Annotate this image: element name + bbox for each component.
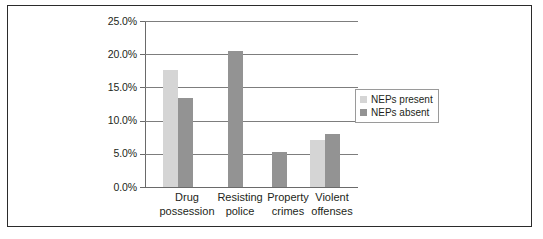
y-tick-label-25: 25.0%: [108, 15, 137, 27]
x-axis-labels: Drug possession Resisting police Propert…: [145, 190, 358, 232]
bar-drug-possession-neps-absent: [178, 98, 193, 187]
bar-property-crimes-neps-absent: [272, 152, 287, 187]
chart-figure: 25.0% 20.0% 15.0% 10.0% 5.0% 0.0%: [0, 0, 543, 239]
y-tick-label-5: 5.0%: [113, 147, 137, 159]
legend-label-neps-present: NEPs present: [371, 94, 433, 105]
legend-item-neps-absent: NEPs absent: [360, 106, 433, 119]
bar-violent-offenses-neps-present: [310, 140, 325, 187]
x-label-violent-offenses: Violent offenses: [282, 190, 382, 218]
bar-violent-offenses-neps-absent: [325, 134, 340, 187]
bar-group-violent-offenses: [306, 21, 354, 187]
gridline-0-baseline: [145, 187, 358, 188]
x-label-violent-offenses-line2: offenses: [282, 204, 382, 218]
bar-resisting-police-neps-absent: [228, 51, 243, 187]
y-tick-label-20: 20.0%: [108, 48, 137, 60]
bar-group-resisting-police: [213, 21, 261, 187]
x-label-violent-offenses-line1: Violent: [315, 191, 348, 203]
plot-area: [145, 21, 358, 187]
chart-legend: NEPs present NEPs absent: [355, 89, 439, 123]
legend-swatch-icon-neps-absent: [360, 109, 367, 116]
y-tick-label-10: 10.0%: [108, 114, 137, 126]
y-axis-labels: 25.0% 20.0% 15.0% 10.0% 5.0% 0.0%: [95, 0, 137, 239]
bar-group-property-crimes: [263, 21, 311, 187]
bar-group-drug-possession: [163, 21, 211, 187]
legend-swatch-icon-neps-present: [360, 96, 367, 103]
bar-drug-possession-neps-present: [163, 70, 178, 187]
legend-item-neps-present: NEPs present: [360, 93, 433, 106]
y-tick-label-15: 15.0%: [108, 81, 137, 93]
legend-label-neps-absent: NEPs absent: [371, 107, 429, 118]
y-tick-label-0: 0.0%: [113, 181, 137, 193]
